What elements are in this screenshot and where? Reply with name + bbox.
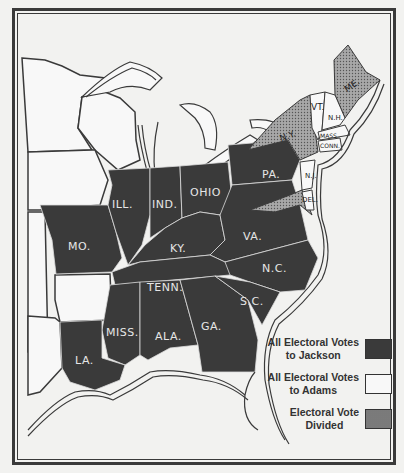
label-mass: MASS. [320, 132, 339, 139]
legend-item-divided: Electoral Vote Divided [252, 406, 392, 432]
legend-jackson-line2: to Jackson [268, 349, 359, 362]
label-ga: GA. [201, 320, 222, 333]
legend-adams-line2: to Adams [268, 384, 359, 397]
label-pa: PA. [262, 168, 280, 181]
label-ky: KY. [170, 242, 186, 255]
label-mo: MO. [68, 240, 91, 253]
label-del: DEL. [302, 196, 318, 204]
label-nc: N.C. [262, 262, 287, 275]
label-tenn: TENN. [146, 281, 183, 294]
legend-swatch-divided [365, 409, 392, 429]
label-ohio: OHIO [190, 186, 221, 199]
legend-swatch-adams [365, 374, 392, 394]
legend-item-adams: All Electoral Votes to Adams [252, 371, 392, 397]
legend-adams-line1: All Electoral Votes [268, 371, 359, 384]
label-nh: N.H. [328, 114, 343, 122]
legend-divided-line2: Divided [290, 419, 359, 432]
label-vt: VT. [311, 102, 324, 112]
label-la: LA. [75, 354, 94, 367]
map-legend: All Electoral Votes to Jackson All Elect… [252, 336, 392, 441]
label-nj: N.J. [305, 172, 317, 180]
label-miss: MISS. [106, 326, 139, 339]
legend-swatch-jackson [365, 339, 392, 359]
label-ala: ALA. [155, 330, 182, 343]
label-va: VA. [243, 230, 262, 243]
label-ind: IND. [152, 198, 177, 211]
label-conn: CONN. [320, 142, 340, 149]
legend-jackson-line1: All Electoral Votes [268, 336, 359, 349]
legend-item-jackson: All Electoral Votes to Jackson [252, 336, 392, 362]
label-ill: ILL. [112, 198, 133, 211]
label-sc: S.C. [240, 295, 264, 308]
legend-divided-line1: Electoral Vote [290, 406, 359, 419]
